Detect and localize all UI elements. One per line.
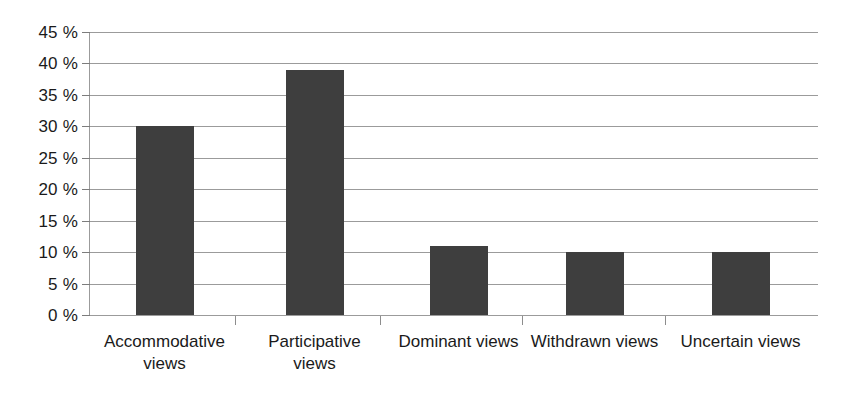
x-axis-category-label: Uncertain views [666, 331, 816, 353]
y-axis-tick-label: 20 % [0, 181, 78, 198]
bar-chart: 0 %5 %10 %15 %20 %25 %30 %35 %40 %45 %Ac… [0, 0, 847, 399]
bar-withdrawn-views [566, 252, 624, 315]
y-tick-mark [82, 221, 90, 222]
bar-uncertain-views [712, 252, 770, 315]
x-axis-category-label: Dominant views [384, 331, 534, 353]
x-tick-mark [235, 316, 236, 325]
bar-dominant-views [430, 246, 488, 315]
y-axis-tick-label: 45 % [0, 24, 78, 41]
x-tick-mark [380, 316, 381, 325]
gridline [89, 315, 818, 316]
x-tick-mark [522, 316, 523, 325]
gridline [89, 32, 818, 33]
y-tick-mark [82, 158, 90, 159]
y-axis-tick-label: 35 % [0, 86, 78, 103]
x-axis-category-label: Withdrawn views [520, 331, 670, 353]
x-axis-category-label: Accommodativeviews [70, 331, 260, 375]
x-tick-mark [665, 316, 666, 325]
y-axis-tick-label: 0 % [0, 307, 78, 324]
y-axis-tick-label: 30 % [0, 118, 78, 135]
y-axis-tick-label: 15 % [0, 212, 78, 229]
gridline [89, 189, 818, 190]
y-tick-mark [82, 284, 90, 285]
y-tick-mark [82, 63, 90, 64]
y-axis-tick-label: 25 % [0, 149, 78, 166]
gridline [89, 95, 818, 96]
y-tick-mark [82, 95, 90, 96]
gridline [89, 63, 818, 64]
y-axis-line [89, 32, 90, 316]
y-axis-tick-label: 10 % [0, 244, 78, 261]
gridline [89, 158, 818, 159]
gridline [89, 221, 818, 222]
bar-participative-views [286, 70, 344, 315]
gridline [89, 126, 818, 127]
plot-area [89, 32, 818, 315]
y-tick-mark [82, 189, 90, 190]
y-axis-tick-label: 5 % [0, 275, 78, 292]
y-tick-mark [82, 126, 90, 127]
bar-accommodative-views [136, 126, 194, 315]
x-axis-category-label: Participativeviews [232, 331, 397, 375]
y-tick-mark [82, 32, 90, 33]
y-tick-mark [82, 315, 90, 316]
y-tick-mark [82, 252, 90, 253]
y-axis-tick-label: 40 % [0, 55, 78, 72]
